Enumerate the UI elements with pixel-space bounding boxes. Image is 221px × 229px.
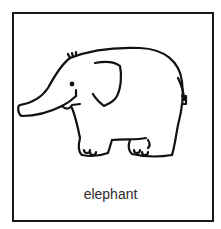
card-label: elephant (0, 186, 221, 202)
